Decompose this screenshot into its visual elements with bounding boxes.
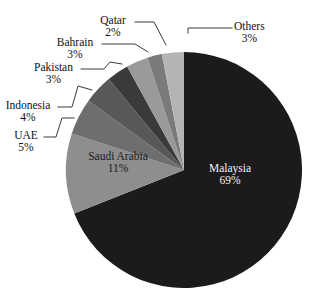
slice-label-saudi-arabia-category: Saudi Arabia <box>73 150 163 162</box>
slice-label-indonesia: Indonesia 4% <box>0 99 58 124</box>
slice-label-saudi-arabia-percent: 11% <box>73 162 163 174</box>
slice-label-malaysia-category: Malaysia <box>193 162 267 174</box>
slice-label-pakistan-percent: 3% <box>26 73 81 85</box>
slice-label-others: Others 3% <box>234 20 265 45</box>
slice-label-others-percent: 3% <box>234 32 265 44</box>
slice-label-malaysia: Malaysia 69% <box>193 162 267 187</box>
slice-label-pakistan-category: Pakistan <box>26 61 81 73</box>
leader-line-bahrain <box>102 44 148 52</box>
slice-label-malaysia-percent: 69% <box>193 174 267 186</box>
slice-label-bahrain: Bahrain 3% <box>48 36 102 61</box>
slice-label-indonesia-category: Indonesia <box>0 99 58 111</box>
slice-label-pakistan: Pakistan 3% <box>26 61 81 86</box>
leader-line-others <box>188 28 232 33</box>
slice-label-bahrain-percent: 3% <box>48 48 102 60</box>
slice-label-saudi-arabia: Saudi Arabia 11% <box>73 150 163 175</box>
slice-label-uae-percent: 5% <box>8 141 44 153</box>
slice-label-uae-category: UAE <box>8 129 44 141</box>
leader-line-pakistan <box>81 62 122 69</box>
leader-line-qatar <box>135 22 166 45</box>
slice-label-bahrain-category: Bahrain <box>48 36 102 48</box>
slice-label-indonesia-percent: 4% <box>0 111 58 123</box>
slice-label-uae: UAE 5% <box>8 129 44 154</box>
pie-chart: Others 3% Qatar 2% Bahrain 3% Pakistan 3… <box>0 0 329 303</box>
slice-label-qatar-category: Qatar <box>90 14 136 26</box>
slice-label-others-category: Others <box>234 20 265 32</box>
